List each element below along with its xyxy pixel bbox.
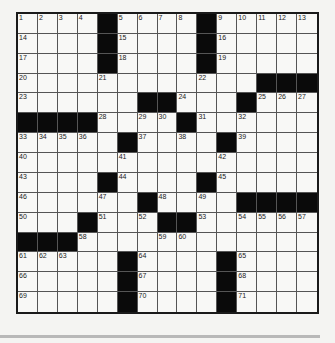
grid-cell[interactable]: [177, 292, 197, 312]
grid-cell[interactable]: [237, 153, 257, 173]
grid-cell[interactable]: [297, 113, 317, 133]
grid-cell[interactable]: [58, 153, 78, 173]
grid-cell[interactable]: [297, 233, 317, 253]
grid-cell[interactable]: [58, 292, 78, 312]
grid-cell[interactable]: 44: [118, 173, 138, 193]
grid-cell[interactable]: 13: [297, 14, 317, 34]
grid-cell[interactable]: [118, 113, 138, 133]
grid-cell[interactable]: [237, 233, 257, 253]
grid-cell[interactable]: 30: [158, 113, 178, 133]
grid-cell[interactable]: [297, 252, 317, 272]
grid-cell[interactable]: [257, 292, 277, 312]
grid-cell[interactable]: [138, 153, 158, 173]
grid-cell[interactable]: [277, 34, 297, 54]
grid-cell[interactable]: 48: [158, 193, 178, 213]
grid-cell[interactable]: [257, 272, 277, 292]
grid-cell[interactable]: [118, 233, 138, 253]
grid-cell[interactable]: [237, 34, 257, 54]
grid-cell[interactable]: 55: [257, 213, 277, 233]
grid-cell[interactable]: 35: [58, 133, 78, 153]
grid-cell[interactable]: 64: [138, 252, 158, 272]
grid-cell[interactable]: 15: [118, 34, 138, 54]
grid-cell[interactable]: [98, 93, 118, 113]
grid-cell[interactable]: [277, 133, 297, 153]
grid-cell[interactable]: 3: [58, 14, 78, 34]
grid-cell[interactable]: [257, 252, 277, 272]
grid-cell[interactable]: [257, 173, 277, 193]
grid-cell[interactable]: [217, 74, 237, 94]
grid-cell[interactable]: [78, 34, 98, 54]
grid-cell[interactable]: [177, 74, 197, 94]
grid-cell[interactable]: [138, 233, 158, 253]
grid-cell[interactable]: 7: [158, 14, 178, 34]
grid-cell[interactable]: 21: [98, 74, 118, 94]
grid-cell[interactable]: [58, 272, 78, 292]
grid-cell[interactable]: 67: [138, 272, 158, 292]
grid-cell[interactable]: [257, 113, 277, 133]
grid-cell[interactable]: [257, 153, 277, 173]
grid-cell[interactable]: [38, 74, 58, 94]
grid-cell[interactable]: 2: [38, 14, 58, 34]
grid-cell[interactable]: [38, 93, 58, 113]
grid-cell[interactable]: [38, 34, 58, 54]
grid-cell[interactable]: 69: [18, 292, 38, 312]
grid-cell[interactable]: 71: [237, 292, 257, 312]
grid-cell[interactable]: [177, 252, 197, 272]
grid-cell[interactable]: [297, 54, 317, 74]
grid-cell[interactable]: 9: [217, 14, 237, 34]
grid-cell[interactable]: [98, 133, 118, 153]
grid-cell[interactable]: [78, 153, 98, 173]
grid-cell[interactable]: [197, 93, 217, 113]
grid-cell[interactable]: [217, 233, 237, 253]
grid-cell[interactable]: 23: [18, 93, 38, 113]
grid-cell[interactable]: [138, 34, 158, 54]
grid-cell[interactable]: 24: [177, 93, 197, 113]
grid-cell[interactable]: [118, 193, 138, 213]
grid-cell[interactable]: 10: [237, 14, 257, 34]
grid-cell[interactable]: 68: [237, 272, 257, 292]
grid-cell[interactable]: 17: [18, 54, 38, 74]
grid-cell[interactable]: 63: [58, 252, 78, 272]
grid-cell[interactable]: 37: [138, 133, 158, 153]
grid-cell[interactable]: [177, 34, 197, 54]
grid-cell[interactable]: 22: [197, 74, 217, 94]
grid-cell[interactable]: [158, 252, 178, 272]
grid-cell[interactable]: 18: [118, 54, 138, 74]
grid-cell[interactable]: 36: [78, 133, 98, 153]
grid-cell[interactable]: 58: [78, 233, 98, 253]
grid-cell[interactable]: 11: [257, 14, 277, 34]
grid-cell[interactable]: [297, 292, 317, 312]
grid-cell[interactable]: [118, 74, 138, 94]
grid-cell[interactable]: [257, 233, 277, 253]
grid-cell[interactable]: [38, 292, 58, 312]
grid-cell[interactable]: [177, 272, 197, 292]
grid-cell[interactable]: [277, 292, 297, 312]
grid-cell[interactable]: [277, 173, 297, 193]
grid-cell[interactable]: 12: [277, 14, 297, 34]
grid-cell[interactable]: [277, 113, 297, 133]
grid-cell[interactable]: [297, 133, 317, 153]
grid-cell[interactable]: [217, 193, 237, 213]
grid-cell[interactable]: 53: [197, 213, 217, 233]
grid-cell[interactable]: [58, 193, 78, 213]
grid-cell[interactable]: 54: [237, 213, 257, 233]
grid-cell[interactable]: [158, 54, 178, 74]
grid-cell[interactable]: 46: [18, 193, 38, 213]
grid-cell[interactable]: [98, 292, 118, 312]
grid-cell[interactable]: 16: [217, 34, 237, 54]
grid-cell[interactable]: [177, 173, 197, 193]
grid-cell[interactable]: [118, 213, 138, 233]
grid-cell[interactable]: [257, 133, 277, 153]
grid-cell[interactable]: 50: [18, 213, 38, 233]
grid-cell[interactable]: [297, 173, 317, 193]
grid-cell[interactable]: [277, 252, 297, 272]
grid-cell[interactable]: 25: [257, 93, 277, 113]
grid-cell[interactable]: [98, 153, 118, 173]
grid-cell[interactable]: 60: [177, 233, 197, 253]
grid-cell[interactable]: [158, 153, 178, 173]
grid-cell[interactable]: [58, 173, 78, 193]
grid-cell[interactable]: 51: [98, 213, 118, 233]
grid-cell[interactable]: [277, 272, 297, 292]
grid-cell[interactable]: [78, 54, 98, 74]
grid-cell[interactable]: [78, 193, 98, 213]
